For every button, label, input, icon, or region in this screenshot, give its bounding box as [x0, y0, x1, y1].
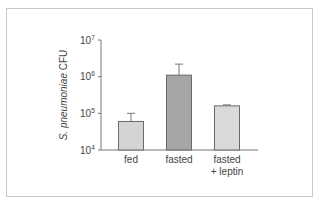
- category-label: fasted: [213, 154, 240, 165]
- bar: [167, 75, 192, 150]
- y-tick-label: 104: [80, 144, 95, 156]
- category-label: fed: [124, 154, 138, 165]
- bar: [119, 121, 144, 150]
- category-label: + leptin: [211, 166, 244, 177]
- y-tick-label: 105: [80, 107, 95, 119]
- y-axis-label: S. pneumoniae CFU: [58, 50, 69, 141]
- bars: [119, 64, 240, 150]
- category-label: fasted: [165, 154, 192, 165]
- y-tick-label: 107: [80, 34, 95, 46]
- category-labels: fedfastedfasted+ leptin: [124, 154, 243, 177]
- y-tick-label: 106: [80, 70, 95, 82]
- bar-chart: S. pneumoniae CFU 104105106107 fedfasted…: [0, 0, 321, 205]
- bar: [215, 106, 240, 150]
